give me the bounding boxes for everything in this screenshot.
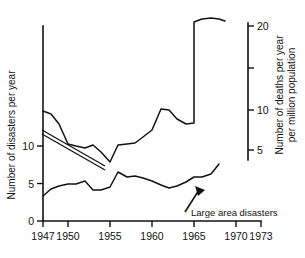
x-axis-ticklabel-1965: 1965 bbox=[182, 230, 206, 242]
right-axis-ticklabel-10: 10 bbox=[257, 104, 269, 116]
series-trend-line bbox=[42, 130, 105, 170]
x-axis-ticklabel-1970: 1970 bbox=[224, 230, 248, 242]
x-axis: 1947 1950 1955 1960 1965 1970 1973 bbox=[31, 221, 273, 242]
right-axis-title-line1: Number of deaths per year bbox=[274, 35, 285, 155]
chart-svg: 0 5 10 Number of disasters per year 1947… bbox=[0, 0, 305, 258]
left-axis-ticklabel-10: 10 bbox=[22, 140, 34, 152]
series-large-area-disasters bbox=[43, 164, 219, 196]
chart-figure: 0 5 10 Number of disasters per year 1947… bbox=[0, 0, 305, 258]
x-axis-ticklabel-1955: 1955 bbox=[98, 230, 122, 242]
right-axis: 20 10 5 Number of deaths per year per mi… bbox=[248, 20, 297, 160]
left-axis-title: Number of disasters per year bbox=[6, 70, 17, 200]
right-axis-title-line2: per million population bbox=[286, 48, 297, 143]
annotation-large-area-disasters: Large area disasters bbox=[185, 186, 278, 218]
x-axis-ticklabel-1950: 1950 bbox=[56, 230, 80, 242]
annotation-label: Large area disasters bbox=[191, 207, 278, 218]
x-axis-ticklabel-1947: 1947 bbox=[31, 230, 55, 242]
x-axis-ticklabel-1973: 1973 bbox=[249, 230, 273, 242]
right-axis-ticklabel-20: 20 bbox=[257, 20, 269, 32]
left-axis: 0 5 10 Number of disasters per year bbox=[6, 26, 43, 227]
left-axis-ticklabel-5: 5 bbox=[28, 178, 34, 190]
right-axis-ticklabel-5: 5 bbox=[257, 144, 263, 156]
left-axis-ticklabel-0: 0 bbox=[28, 215, 34, 227]
x-axis-ticklabel-1960: 1960 bbox=[140, 230, 164, 242]
series-deaths-per-million bbox=[43, 18, 225, 162]
trend-line-lower bbox=[42, 134, 105, 170]
